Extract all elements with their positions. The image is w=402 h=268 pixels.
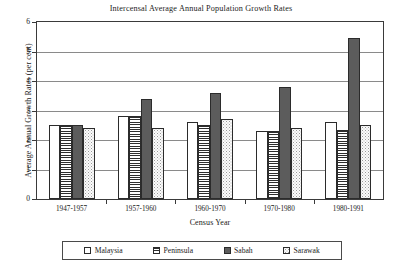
chart-legend: MalaysiaPeninsulaSabahSarawak (62, 241, 342, 260)
bar-peninsula-1980-1991 (337, 130, 349, 199)
bar-sarawak-1957-1960 (152, 128, 164, 199)
x-tick-label: 1980-1991 (333, 205, 364, 213)
y-tick: 0 (0, 199, 36, 200)
legend-item-sarawak[interactable]: Sarawak (283, 246, 320, 255)
bar-peninsula-1970-1980 (268, 131, 280, 199)
bar-peninsula-1960-1970 (198, 125, 210, 199)
y-tick-mark (32, 22, 36, 23)
y-tick: 1 (0, 170, 36, 171)
x-axis: 1947-19571957-19601960-19701970-19801980… (36, 200, 384, 216)
chart-title: Intercensal Average Annual Population Gr… (0, 4, 402, 13)
x-tick-mark (175, 200, 176, 204)
bar-sabah-1947-1957 (72, 125, 84, 199)
bar-group (175, 22, 244, 199)
x-tick-label: 1960-1970 (194, 205, 225, 213)
y-tick-mark (32, 111, 36, 112)
legend-label: Sarawak (294, 246, 320, 255)
bar-series-layer (37, 22, 383, 199)
x-tick-label: 1970-1980 (264, 205, 295, 213)
y-tick-label: 3 (26, 106, 30, 115)
bar-sarawak-1970-1980 (291, 128, 303, 199)
bar-sabah-1970-1980 (279, 87, 291, 199)
legend-label: Sabah (234, 246, 253, 255)
bar-malaysia-1970-1980 (256, 131, 268, 199)
legend-label: Peninsula (164, 246, 194, 255)
bar-sarawak-1960-1970 (221, 119, 233, 199)
legend-swatch-peninsula (153, 247, 160, 254)
y-tick-label: 6 (26, 17, 30, 26)
bar-malaysia-1957-1960 (118, 116, 130, 199)
y-tick-label: 1 (26, 165, 30, 174)
y-tick-label: 4 (26, 76, 30, 85)
y-tick-mark (32, 81, 36, 82)
legend-label: Malaysia (95, 246, 123, 255)
y-tick-label: 2 (26, 135, 30, 144)
bar-malaysia-1947-1957 (49, 125, 61, 199)
bar-sabah-1980-1991 (348, 38, 360, 199)
legend-item-peninsula[interactable]: Peninsula (153, 246, 193, 255)
y-tick: 2 (0, 140, 36, 141)
x-tick-mark (245, 200, 246, 204)
y-tick-mark (32, 140, 36, 141)
x-tick-label: 1957-1960 (125, 205, 156, 213)
y-tick: 5 (0, 52, 36, 53)
y-axis: 0123456 (0, 21, 36, 200)
x-axis-title: Census Year (36, 218, 384, 227)
bar-group (37, 22, 106, 199)
y-tick: 3 (0, 111, 36, 112)
y-tick-label: 0 (26, 194, 30, 203)
y-tick: 6 (0, 22, 36, 23)
bar-group (245, 22, 314, 199)
bar-sarawak-1947-1957 (83, 128, 95, 199)
bar-peninsula-1947-1957 (60, 125, 72, 199)
legend-item-sabah[interactable]: Sabah (224, 246, 253, 255)
x-tick-label: 1947-1957 (56, 205, 87, 213)
bar-group (106, 22, 175, 199)
y-tick-mark (32, 170, 36, 171)
legend-item-malaysia[interactable]: Malaysia (84, 246, 122, 255)
bar-peninsula-1957-1960 (129, 116, 141, 199)
legend-swatch-sabah (224, 247, 231, 254)
bar-group (314, 22, 383, 199)
bar-sabah-1960-1970 (210, 93, 222, 199)
legend-swatch-malaysia (84, 247, 91, 254)
bar-sarawak-1980-1991 (360, 125, 372, 199)
y-tick-label: 5 (26, 47, 30, 56)
legend-swatch-sarawak (283, 247, 290, 254)
y-tick-mark (32, 52, 36, 53)
x-tick-mark (106, 200, 107, 204)
bar-malaysia-1960-1970 (187, 122, 199, 199)
y-tick: 4 (0, 81, 36, 82)
bar-sabah-1957-1960 (141, 99, 153, 199)
x-tick-mark (314, 200, 315, 204)
chart-figure: Intercensal Average Annual Population Gr… (0, 0, 402, 268)
bar-malaysia-1980-1991 (325, 122, 337, 199)
